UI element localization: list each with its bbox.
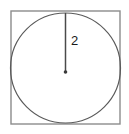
center-dot	[64, 70, 68, 74]
geometry-figure: 2	[0, 0, 129, 134]
radius-length-label: 2	[71, 33, 78, 48]
figure-canvas: 2	[0, 0, 129, 134]
